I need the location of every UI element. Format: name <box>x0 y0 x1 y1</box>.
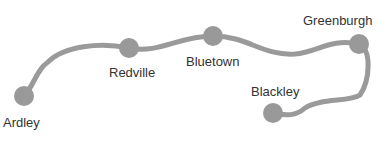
stop-bluetown-marker <box>203 26 223 46</box>
stop-label-redville: Redville <box>109 65 155 80</box>
stop-label-bluetown: Bluetown <box>186 54 239 69</box>
route-diagram: Ardley Redville Bluetown Greenburgh Blac… <box>0 0 391 148</box>
stop-blackley-marker <box>263 103 283 123</box>
stop-ardley-marker <box>14 86 34 106</box>
stop-label-blackley: Blackley <box>251 84 299 99</box>
stop-greenburgh-marker <box>349 34 369 54</box>
stop-label-ardley: Ardley <box>3 115 40 130</box>
stop-redville-marker <box>119 38 139 58</box>
stop-label-greenburgh: Greenburgh <box>303 13 372 28</box>
